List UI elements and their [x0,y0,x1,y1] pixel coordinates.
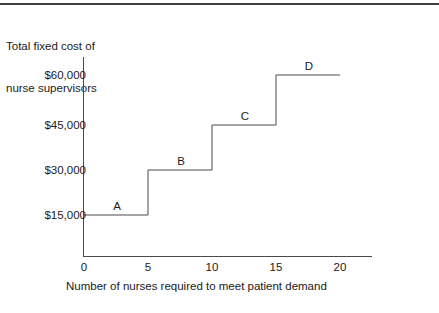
step-label-c: C [235,110,255,122]
step-label-d: D [299,60,319,72]
x-tick-label-5: 5 [133,261,163,273]
x-tick-label-0: 0 [69,261,99,273]
x-tick-label-10: 10 [197,261,227,273]
y-tick-label-45000: $45,000 [24,119,86,131]
step-function-line [83,75,340,215]
step-label-a: A [107,200,127,212]
step-label-b: B [171,155,191,167]
x-tick-label-20: 20 [325,261,355,273]
x-tick-label-15: 15 [261,261,291,273]
y-tick-label-30000: $30,000 [24,164,86,176]
chart-figure: Total fixed cost of nurse supervisors $6… [0,0,439,313]
x-axis-title: Number of nurses required to meet patien… [66,280,327,292]
y-tick-label-60000: $60,000 [24,69,86,81]
y-tick-label-15000: $15,000 [24,209,86,221]
